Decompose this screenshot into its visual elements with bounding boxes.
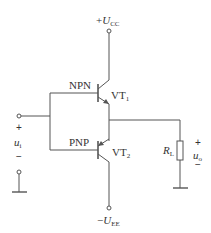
vt1-subscript: 1 bbox=[126, 95, 130, 103]
input-minus-sign: − bbox=[16, 152, 22, 162]
load-label: RL bbox=[163, 145, 174, 158]
load-subscript: L bbox=[170, 150, 174, 158]
vt1-collector bbox=[98, 80, 109, 89]
vt1-label: VT1 bbox=[111, 90, 129, 103]
output-plus-sign: + bbox=[195, 138, 201, 148]
vcc-terminal bbox=[107, 29, 111, 33]
load-resistor bbox=[177, 141, 183, 160]
input-ground-terminal bbox=[17, 170, 21, 174]
pnp-label: PNP bbox=[69, 137, 89, 148]
input-subscript: i bbox=[20, 142, 22, 150]
vt2-symbol: VT bbox=[112, 146, 127, 158]
npn-arrow-icon bbox=[103, 99, 109, 104]
vcc-symbol: U bbox=[102, 14, 110, 26]
vcc-subscript: CC bbox=[110, 20, 119, 28]
vt2-collector bbox=[98, 154, 109, 162]
load-symbol: R bbox=[163, 144, 170, 156]
vt1-symbol: VT bbox=[111, 89, 126, 101]
vt2-label: VT2 bbox=[112, 147, 130, 160]
vee-subscript: EE bbox=[111, 220, 120, 228]
vee-symbol: U bbox=[103, 214, 111, 226]
npn-label: NPN bbox=[69, 80, 91, 91]
vee-terminal bbox=[107, 206, 111, 210]
input-terminal bbox=[17, 114, 21, 118]
input-plus-sign: + bbox=[16, 123, 22, 133]
circuit-schematic bbox=[0, 0, 211, 233]
vt2-subscript: 2 bbox=[127, 152, 131, 160]
input-voltage-label: ui bbox=[14, 137, 21, 150]
pnp-arrow-icon bbox=[98, 141, 104, 146]
vcc-label: +UCC bbox=[96, 15, 120, 28]
vee-label: −UEE bbox=[97, 215, 120, 228]
output-minus-sign: − bbox=[195, 160, 201, 170]
